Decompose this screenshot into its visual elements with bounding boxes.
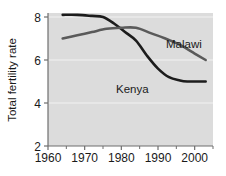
- x-tick-label: 1980: [108, 151, 135, 165]
- chart-canvas: 2468 19601970198019902000 Total fertilit…: [0, 0, 226, 176]
- x-tick-label: 1990: [145, 151, 172, 165]
- x-tick-label: 1960: [35, 151, 62, 165]
- y-tick-label: 8: [34, 11, 41, 25]
- x-tick-label: 2000: [181, 151, 208, 165]
- series-label-malawi: Malawi: [166, 38, 202, 50]
- fertility-rate-chart: 2468 19601970198019902000 Total fertilit…: [0, 0, 226, 176]
- y-tick-label: 4: [34, 97, 41, 111]
- y-tick-label: 6: [34, 54, 41, 68]
- y-axis-title: Total fertility rate: [6, 38, 18, 122]
- x-tick-label: 1970: [71, 151, 98, 165]
- series-label-kenya: Kenya: [116, 83, 149, 95]
- plot-background: [48, 13, 213, 146]
- x-axis-ticks: 19601970198019902000: [35, 146, 213, 165]
- y-axis-ticks: 2468: [34, 11, 48, 154]
